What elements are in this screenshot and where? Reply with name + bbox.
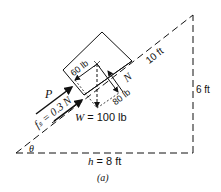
- push-force-label: P: [45, 88, 52, 100]
- weight-label: W = 100 lb: [75, 112, 127, 123]
- height-label: 6 ft: [196, 85, 210, 95]
- figure-caption: (a): [97, 173, 109, 183]
- base-label: h = 8 ft: [88, 156, 121, 167]
- inclined-plane-diagram: 10 ft 6 ft h = 8 ft θ P fₛ = 0.3 N N 60 …: [0, 0, 221, 192]
- angle-label: θ: [29, 144, 34, 154]
